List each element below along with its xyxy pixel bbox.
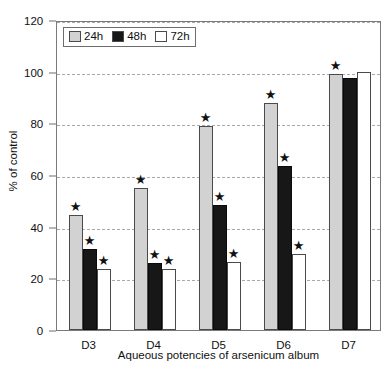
y-tick-label-0: 0	[37, 325, 43, 337]
x-axis-title: Aqueous potencies of arsenicum album	[56, 349, 381, 361]
significance-star-D6-72h: ★	[293, 239, 305, 252]
y-tick-mark-120	[49, 21, 56, 22]
bar-D7-72h	[357, 72, 371, 330]
bar-D4-24h: ★	[134, 188, 148, 330]
significance-star-D3-72h: ★	[98, 254, 110, 267]
bar-D7-48h	[343, 78, 357, 330]
bar-D3-24h: ★	[69, 215, 83, 330]
significance-star-D4-24h: ★	[135, 173, 147, 186]
legend-label-24h: 24h	[84, 31, 103, 43]
bar-D3-72h: ★	[97, 269, 111, 330]
significance-star-D6-24h: ★	[265, 88, 277, 101]
bar-D6-48h: ★	[278, 166, 292, 330]
significance-star-D3-48h: ★	[84, 234, 96, 247]
significance-star-D5-24h: ★	[200, 111, 212, 124]
bar-D7-24h: ★	[329, 74, 343, 330]
plot-area: ★★★★★★★★★★★★★ 24h48h72h	[56, 21, 381, 331]
legend-item-24h: 24h	[69, 31, 103, 43]
legend-label-48h: 48h	[127, 31, 146, 43]
black-swatch	[112, 31, 124, 42]
bar-group-D4: ★★★	[122, 22, 187, 330]
significance-star-D4-48h: ★	[149, 248, 161, 261]
bars-layer: ★★★★★★★★★★★★★	[57, 22, 380, 330]
bar-D4-48h: ★	[148, 263, 162, 330]
y-tick-mark-0	[49, 331, 56, 332]
bar-D6-72h: ★	[292, 254, 306, 330]
legend-item-48h: 48h	[112, 31, 146, 43]
significance-star-D3-24h: ★	[70, 200, 82, 213]
y-tick-mark-60	[49, 176, 56, 177]
bar-chart-figure: 020406080100120 % of control ★★★★★★★★★★★…	[0, 0, 392, 391]
y-tick-label-60: 60	[30, 170, 43, 182]
y-tick-label-100: 100	[24, 67, 43, 79]
significance-star-D7-24h: ★	[330, 59, 342, 72]
significance-star-D6-48h: ★	[279, 151, 291, 164]
y-tick-mark-80	[49, 124, 56, 125]
legend-label-72h: 72h	[170, 31, 189, 43]
significance-star-D5-48h: ★	[214, 190, 226, 203]
y-tick-label-120: 120	[24, 15, 43, 27]
bar-D5-48h: ★	[213, 205, 227, 330]
white-swatch	[155, 31, 167, 42]
bar-D4-72h: ★	[162, 269, 176, 330]
y-tick-mark-40	[49, 227, 56, 228]
significance-star-D4-72h: ★	[163, 254, 175, 267]
y-tick-label-40: 40	[30, 222, 43, 234]
bar-D5-72h: ★	[227, 262, 241, 330]
chart-legend: 24h48h72h	[63, 27, 196, 47]
y-axis-title: % of control	[7, 101, 19, 221]
gray-swatch	[69, 31, 81, 42]
bar-group-D3: ★★★	[57, 22, 122, 330]
bar-D5-24h: ★	[199, 126, 213, 330]
bar-group-D7: ★	[317, 22, 382, 330]
bar-group-D6: ★★★	[252, 22, 317, 330]
significance-star-D5-72h: ★	[228, 247, 240, 260]
legend-item-72h: 72h	[155, 31, 189, 43]
y-tick-mark-20	[49, 279, 56, 280]
bar-D3-48h: ★	[83, 249, 97, 330]
y-tick-label-80: 80	[30, 118, 43, 130]
bar-group-D5: ★★★	[187, 22, 252, 330]
bar-D6-24h: ★	[264, 103, 278, 330]
y-tick-mark-100	[49, 72, 56, 73]
y-tick-label-20: 20	[30, 273, 43, 285]
